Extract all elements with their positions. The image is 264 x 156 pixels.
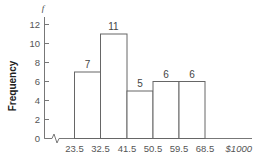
bar-value-label: 7	[85, 59, 91, 70]
y-ticks	[45, 25, 50, 139]
x-tick-label: 23.5	[65, 143, 84, 154]
histogram-chart: f Frequency 0 2 4 6 8 10 12 7 11 5 6 6	[0, 0, 264, 156]
y-tick-label: 2	[35, 114, 40, 125]
bar-23.5-32.5	[75, 72, 101, 139]
y-axis-symbol: f	[42, 3, 46, 13]
y-tick-label: 12	[29, 19, 40, 30]
y-tick-label: 8	[35, 57, 40, 68]
bar-value-label: 5	[137, 78, 143, 89]
x-tick-label: 32.5	[91, 143, 110, 154]
x-tick-label: 59.5	[170, 143, 189, 154]
x-tick-label: 68.5	[196, 143, 215, 154]
y-tick-label: 4	[35, 95, 40, 106]
bar-32.5-41.5	[101, 34, 128, 139]
bar-value-label: 11	[108, 21, 119, 32]
x-tick-label: 50.5	[144, 143, 163, 154]
bar-50.5-59.5	[153, 82, 179, 139]
x-axis-unit-label: $1000	[225, 143, 253, 154]
y-axis-title: Frequency	[7, 60, 18, 111]
x-tick-label: 41.5	[118, 143, 137, 154]
y-tick-labels: 0 2 4 6 8 10 12	[29, 19, 40, 144]
x-tick-labels: 23.5 32.5 41.5 50.5 59.5 68.5	[65, 143, 214, 154]
y-tick-label: 0	[35, 133, 40, 144]
bar-value-label: 6	[163, 69, 169, 80]
bar-59.5-68.5	[179, 82, 205, 139]
y-tick-label: 6	[35, 76, 40, 87]
bar-value-label: 6	[189, 69, 195, 80]
bar-41.5-50.5	[127, 91, 153, 139]
y-tick-label: 10	[29, 38, 40, 49]
